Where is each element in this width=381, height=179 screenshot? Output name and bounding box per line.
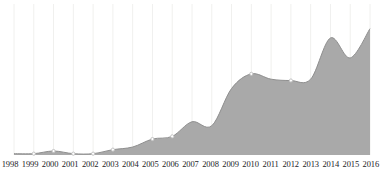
data-point-marker [92,152,95,155]
x-tick-label: 2002 [80,158,100,170]
x-tick-label: 2011 [261,158,281,170]
x-tick-label: 2009 [221,158,241,170]
chart-canvas [0,0,381,158]
data-point-marker [111,148,114,151]
x-tick-label: 2012 [281,158,301,170]
x-tick-label: 2015 [341,158,361,170]
area-chart: 1998199920002001200220032004200520062007… [0,0,381,179]
data-point-marker [32,152,35,155]
x-tick-label: 2008 [200,158,220,170]
x-tick-label: 2001 [60,158,80,170]
x-tick-label: 2006 [160,158,180,170]
data-point-marker [250,72,253,75]
x-tick-label: 1998 [0,158,20,170]
x-tick-label: 1999 [20,158,40,170]
x-tick-label: 2014 [321,158,341,170]
x-tick-label: 2010 [241,158,261,170]
data-point-marker [151,137,154,140]
x-tick-label: 2013 [301,158,321,170]
data-point-marker [52,149,55,152]
x-tick-label: 2004 [120,158,140,170]
x-tick-label: 2005 [140,158,160,170]
data-point-marker [171,135,174,138]
plot-area [0,0,381,158]
x-tick-label: 2016 [361,158,381,170]
data-point-marker [72,152,75,155]
x-tick-label: 2000 [40,158,60,170]
x-tick-label: 2003 [100,158,120,170]
x-tick-label: 2007 [180,158,200,170]
data-point-marker [289,79,292,82]
x-axis: 1998199920002001200220032004200520062007… [0,158,381,179]
